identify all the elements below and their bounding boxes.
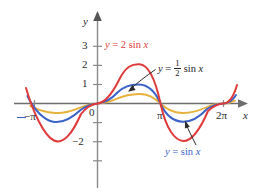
- curve-label-2sin-function: sin: [129, 39, 141, 50]
- curve-label-2sin-amplitude: 2: [121, 39, 126, 50]
- y-tick-label-1: 1: [82, 78, 88, 89]
- curve-label-sin-x: y = sin x: [165, 147, 200, 158]
- curve-label-2sin-equals: =: [112, 39, 118, 50]
- curve-label-half-function: sin: [184, 63, 196, 74]
- sine-amplitude-figure: y x 3 2 1 −2 0 −π π 2π y = 2 sin x y = 1…: [0, 0, 264, 192]
- x-axis-arrowhead: [238, 99, 248, 108]
- curve-label-sin-equals: =: [172, 146, 178, 157]
- y-axis-label: y: [83, 16, 88, 27]
- y-tick-label-3: 3: [82, 40, 88, 51]
- curve-label-half-lhs: y: [158, 63, 163, 74]
- curve-label-2-sin-x: y = 2 sin x: [105, 40, 148, 51]
- curve-label-half-variable: x: [199, 63, 204, 74]
- curve-label-half-equals: =: [165, 63, 171, 74]
- y-tick-label-neg2: −2: [72, 136, 84, 147]
- curve-label-half-sin-x: y = 1 2 sin x: [158, 59, 203, 77]
- x-tick-label-pi: π: [157, 110, 163, 121]
- curve-label-2sin-lhs: y: [105, 39, 110, 50]
- y-axis: [93, 11, 102, 188]
- curve-label-sin-variable: x: [196, 146, 201, 157]
- curve-label-2sin-variable: x: [144, 39, 149, 50]
- y-axis-arrowhead: [93, 11, 102, 21]
- x-axis-label: x: [243, 110, 248, 121]
- curve-label-sin-function: sin: [181, 146, 193, 157]
- origin-label: 0: [89, 107, 95, 118]
- plot-canvas: [0, 0, 264, 192]
- curve-label-sin-lhs: y: [165, 146, 170, 157]
- x-tick-label-neg-pi: −π: [24, 111, 36, 122]
- curve-label-half-fraction: 1 2: [174, 59, 180, 77]
- fraction-denominator: 2: [174, 69, 180, 78]
- x-tick-label-2pi: 2π: [216, 110, 227, 121]
- y-tick-label-2: 2: [82, 59, 88, 70]
